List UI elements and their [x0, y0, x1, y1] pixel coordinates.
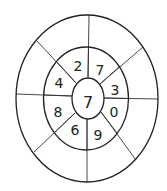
ring-number-bottom-left: 6 [71, 122, 80, 138]
ring-number-top-right: 7 [96, 62, 105, 78]
mid-divider-left [44, 95, 73, 96]
ring-number-top-left: 2 [74, 58, 83, 74]
puzzle-diagram: 7 2 7 3 0 9 6 8 4 [0, 0, 167, 191]
ring-number-right-lower: 0 [110, 104, 119, 120]
mid-divider-top [88, 47, 89, 78]
mid-divider-right [104, 98, 129, 99]
ring-number-bottom-right: 9 [94, 127, 103, 143]
ring-number-right-upper: 3 [111, 82, 120, 98]
center-number: 7 [83, 93, 93, 112]
ring-number-left-lower: 8 [54, 104, 63, 120]
ring-number-left-upper: 4 [55, 75, 64, 91]
